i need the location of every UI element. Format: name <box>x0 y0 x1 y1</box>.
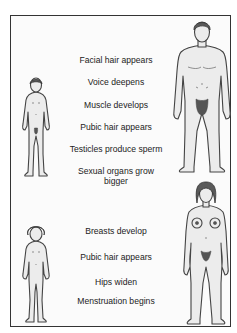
female-change-breasts: Breasts develop <box>55 226 177 236</box>
male-change-facial-hair: Facial hair appears <box>55 55 177 65</box>
woman-figure <box>178 183 234 325</box>
man-figure <box>170 21 234 175</box>
boy-figure <box>18 76 54 178</box>
female-change-pubic-hair: Pubic hair appears <box>55 252 177 262</box>
girl-figure <box>19 224 53 324</box>
male-change-testicles: Testicles produce sperm <box>55 144 177 154</box>
female-change-menstruation: Menstruation begins <box>55 296 177 306</box>
female-change-hips: Hips widen <box>55 277 177 287</box>
male-change-sexual-organs: Sexual organs grow bigger <box>75 166 157 186</box>
male-change-pubic-hair: Pubic hair appears <box>55 122 177 132</box>
male-change-voice: Voice deepens <box>55 77 177 87</box>
male-change-muscle: Muscle develops <box>55 100 177 110</box>
